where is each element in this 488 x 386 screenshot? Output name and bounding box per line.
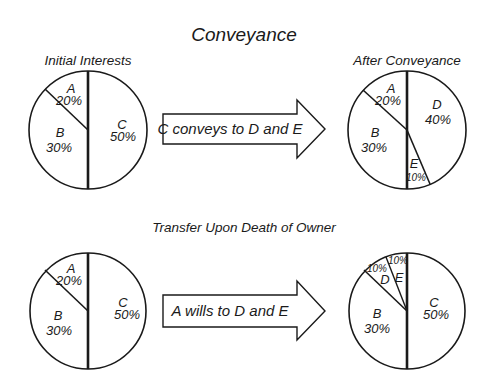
slice-a-pct: 20%	[374, 93, 401, 108]
arrow-a-wills: A wills to D and E	[163, 281, 325, 340]
slice-b-label: B	[56, 125, 65, 140]
slice-e-pct: 10%	[406, 172, 426, 183]
arrow-label-conveys: C conveys to D and E	[157, 120, 303, 137]
pie-after-conveyance: A 20% B 30% D 40% E 10%	[348, 71, 466, 189]
slice-b-pct: 30%	[46, 140, 72, 155]
slice-c-pct: 50%	[110, 129, 136, 144]
arrow-label-wills: A wills to D and E	[171, 302, 290, 319]
slice-b-pct: 30%	[361, 140, 387, 155]
slice-b-label: B	[373, 306, 382, 321]
slice-e-label: E	[410, 156, 419, 171]
pie-after-transfer: 10% E 10% D B 30% C 50%	[349, 253, 465, 369]
after-conveyance-caption: After Conveyance	[352, 53, 460, 68]
slice-d-label: D	[380, 272, 389, 287]
diagram-title: Conveyance	[191, 24, 297, 45]
arrow-c-conveys: C conveys to D and E	[157, 100, 325, 158]
conveyance-diagram: Conveyance Initial Interests After Conve…	[0, 0, 488, 386]
pie-initial-interests: A 20% B 30% C 50%	[29, 71, 147, 189]
slice-e-pct: 10%	[388, 255, 408, 266]
slice-d-pct: 40%	[425, 112, 451, 127]
slice-d-label: D	[432, 97, 441, 112]
slice-e-label: E	[395, 270, 404, 285]
slice-a-pct: 20%	[55, 273, 82, 288]
initial-interests-caption: Initial Interests	[44, 53, 131, 68]
slice-b-label: B	[371, 125, 380, 140]
slice-b-pct: 30%	[46, 323, 72, 338]
pie-before-transfer: A 20% B 30% C 50%	[30, 253, 146, 369]
slice-b-pct: 30%	[364, 321, 390, 336]
slice-a-pct: 20%	[55, 93, 82, 108]
slice-c-pct: 50%	[114, 307, 140, 322]
slice-c-pct: 50%	[423, 307, 449, 322]
transfer-upon-death-caption: Transfer Upon Death of Owner	[152, 220, 336, 235]
slice-b-label: B	[54, 308, 63, 323]
